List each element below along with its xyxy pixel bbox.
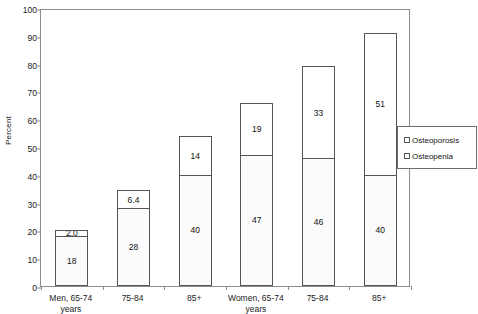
bar-value-label: 19 — [251, 125, 262, 134]
bar-segment-osteoporosis: 19 — [240, 103, 273, 156]
bar-value-label: 46 — [313, 218, 324, 227]
y-tick-mark — [37, 10, 41, 11]
bar-stack: 3346 — [302, 66, 335, 286]
bar-stack: 1947 — [240, 103, 273, 286]
x-axis-label: 85+ — [334, 293, 424, 304]
bar-segment-osteoporosis: 14 — [179, 136, 212, 175]
y-tick-mark — [37, 176, 41, 177]
x-tick-mark — [411, 286, 412, 290]
legend-swatch-icon — [404, 137, 410, 143]
bar-segment-osteopenia: 40 — [179, 175, 212, 286]
bar-segment-osteopenia: 18 — [55, 236, 88, 286]
bar-stack: 2.018 — [55, 230, 88, 286]
y-tick-label: 50 — [28, 144, 37, 154]
bar-value-label: 14 — [189, 152, 200, 161]
stacked-bar-chart: Percent 0102030405060708090100 2.0186.42… — [0, 0, 478, 314]
legend-item-label: Osteoporosis — [412, 136, 459, 145]
y-tick-mark — [37, 149, 41, 150]
bar-segment-osteopenia: 47 — [240, 155, 273, 286]
y-tick-mark — [37, 121, 41, 122]
bar-segment-osteoporosis: 33 — [302, 66, 335, 158]
bar-value-label: 18 — [66, 257, 77, 266]
bar-segment-osteopenia: 28 — [117, 208, 150, 286]
plot-area: 0102030405060708090100 2.0186.4281440194… — [40, 9, 410, 287]
y-tick-label: 20 — [28, 227, 37, 237]
bar-stack: 1440 — [179, 136, 212, 286]
y-tick-label: 100 — [23, 5, 37, 15]
bar-segment-osteopenia: 40 — [364, 175, 397, 286]
x-tick-mark — [164, 286, 165, 290]
bar-segment-osteopenia: 46 — [302, 158, 335, 286]
bar-stack: 5140 — [364, 33, 397, 286]
bar-value-label: 47 — [251, 216, 262, 225]
y-axis-title: Percent — [4, 101, 13, 161]
bar-value-label: 40 — [189, 226, 200, 235]
bar-value-label: 6.4 — [127, 196, 141, 205]
x-tick-mark — [288, 286, 289, 290]
bar-segment-osteoporosis: 6.4 — [117, 190, 150, 208]
x-tick-mark — [226, 286, 227, 290]
y-tick-mark — [37, 37, 41, 38]
x-tick-mark — [41, 286, 42, 290]
legend-item-osteoporosis: Osteoporosis — [404, 132, 476, 148]
bar-value-label: 40 — [374, 226, 385, 235]
y-tick-label: 70 — [28, 88, 37, 98]
y-tick-label: 80 — [28, 61, 37, 71]
y-tick-label: 30 — [28, 200, 37, 210]
bar-value-label: 51 — [374, 100, 385, 109]
y-tick-mark — [37, 232, 41, 233]
bar-segment-osteoporosis: 51 — [364, 33, 397, 175]
bar-stack: 6.428 — [117, 190, 150, 286]
y-tick-mark — [37, 93, 41, 94]
y-tick-label: 40 — [28, 172, 37, 182]
y-tick-label: 90 — [28, 33, 37, 43]
legend-item-osteopenia: Osteopenia — [404, 148, 476, 164]
x-tick-mark — [349, 286, 350, 290]
legend: OsteoporosisOsteopenia — [397, 126, 477, 169]
y-tick-label: 60 — [28, 116, 37, 126]
bar-value-label: 33 — [313, 109, 324, 118]
legend-swatch-icon — [404, 153, 410, 159]
y-tick-mark — [37, 260, 41, 261]
y-tick-label: 10 — [28, 255, 37, 265]
bar-value-label: 28 — [128, 243, 139, 252]
x-tick-mark — [103, 286, 104, 290]
legend-item-label: Osteopenia — [412, 152, 453, 161]
y-tick-mark — [37, 204, 41, 205]
y-tick-mark — [37, 65, 41, 66]
bar-value-label: 2.0 — [65, 230, 79, 236]
